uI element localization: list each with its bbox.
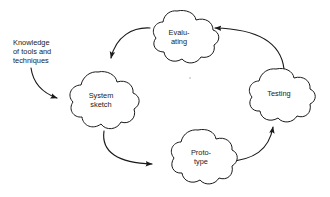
node-testing[interactable]: Testing	[249, 68, 315, 121]
knowledge-label-line2: of tools and	[13, 47, 51, 56]
evaluating-label-line1: Evalu-	[169, 28, 190, 37]
cycle-diagram: Evalu- ating System sketch Testing Proto…	[0, 0, 330, 197]
edge-evaluating-to-system-sketch	[111, 28, 150, 58]
knowledge-input-label: Knowledge of tools and techniques	[13, 38, 51, 65]
knowledge-label-line3: techniques	[13, 56, 49, 65]
prototype-label-line1: Proto-	[191, 148, 212, 157]
edge-system-sketch-to-prototype	[104, 131, 152, 164]
scan-artifact-speck	[189, 77, 191, 79]
node-system-sketch[interactable]: System sketch	[70, 72, 139, 129]
edge-knowledge-to-system-sketch	[31, 68, 57, 98]
knowledge-label-line1: Knowledge	[13, 38, 50, 47]
evaluating-label-line2: ating	[171, 37, 187, 46]
prototype-label-line2: type	[194, 157, 208, 166]
node-evaluating[interactable]: Evalu- ating	[153, 10, 218, 62]
edge-testing-to-evaluating	[215, 28, 284, 69]
node-prototype[interactable]: Proto- type	[171, 129, 237, 183]
system-sketch-label-line2: sketch	[90, 100, 111, 109]
testing-label-line1: Testing	[267, 89, 290, 98]
system-sketch-label-line1: System	[89, 91, 114, 100]
diagram-canvas: Evalu- ating System sketch Testing Proto…	[0, 0, 330, 197]
